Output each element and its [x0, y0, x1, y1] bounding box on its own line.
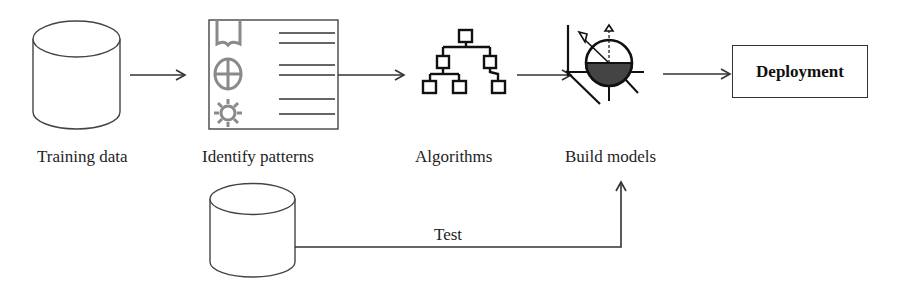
globe-icon [215, 59, 241, 89]
training-data-cylinder-icon [33, 21, 120, 129]
label-algorithms: Algorithms [415, 148, 492, 165]
deployment-box: Deployment [732, 45, 868, 98]
label-deployment: Deployment [756, 62, 844, 82]
label-identify-patterns: Identify patterns [202, 148, 314, 165]
tree-hierarchy-icon [423, 30, 505, 93]
label-build-models: Build models [565, 148, 656, 165]
test-data-cylinder-icon [210, 184, 295, 278]
sphere-model-icon [566, 25, 644, 104]
label-training-data: Training data [37, 148, 128, 165]
label-test: Test [434, 226, 462, 243]
pattern-panel-icon [209, 20, 338, 129]
